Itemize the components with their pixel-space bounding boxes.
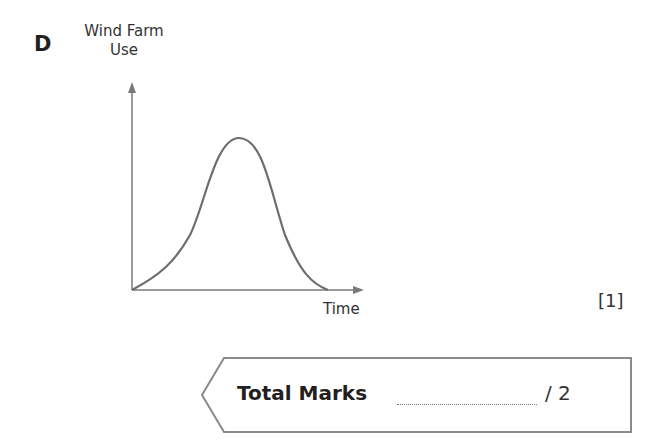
total-marks-box bbox=[0, 0, 659, 442]
total-marks-answer-line[interactable] bbox=[397, 404, 537, 405]
total-marks-out-of: / 2 bbox=[545, 381, 571, 405]
total-marks-label: Total Marks bbox=[237, 381, 367, 405]
